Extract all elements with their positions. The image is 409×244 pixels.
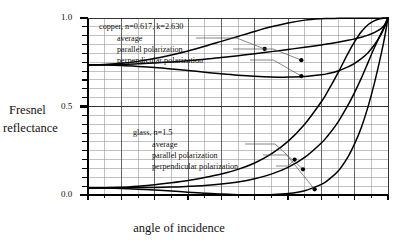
fresnel-reflectance-chart: 1.0 0.5 0.0 Fresnel reflectance angle of… xyxy=(0,0,409,244)
glass-average-leader-line xyxy=(245,144,303,169)
y-tick-label-1.0: 1.0 xyxy=(61,13,72,22)
y-axis-title-line2: reflectance xyxy=(3,122,58,135)
glass-annotation-header: glass, n=1.5 xyxy=(133,129,172,137)
copper-annotation-header: copper, n=0.617, k=2.630 xyxy=(99,23,183,31)
y-tick-label-0.0: 0.0 xyxy=(61,190,72,199)
copper-annotation-parallel: parallel polarization xyxy=(117,46,183,54)
copper-annotation-average: average xyxy=(117,35,142,43)
glass-annotation-perpendicular: perpendicular polarization xyxy=(152,163,238,171)
glass-annotation-parallel: parallel polarization xyxy=(152,152,218,160)
copper-perpendicular-marker xyxy=(299,74,303,78)
glass-parallel-leader-line xyxy=(263,155,315,189)
glass-parallel-marker xyxy=(313,187,317,191)
glass-annotation-average: average xyxy=(152,141,177,149)
glass-average-marker xyxy=(301,167,305,171)
x-axis-title: angle of incidence xyxy=(133,222,225,235)
y-axis-title-line1: Fresnel xyxy=(9,104,46,117)
y-tick-label-0.5: 0.5 xyxy=(61,102,72,111)
glass-perpendicular-marker xyxy=(293,158,297,162)
copper-parallel-marker xyxy=(299,58,303,62)
plot-canvas xyxy=(0,0,409,244)
copper-annotation-perpendicular: perpendicular polarization xyxy=(117,57,203,65)
